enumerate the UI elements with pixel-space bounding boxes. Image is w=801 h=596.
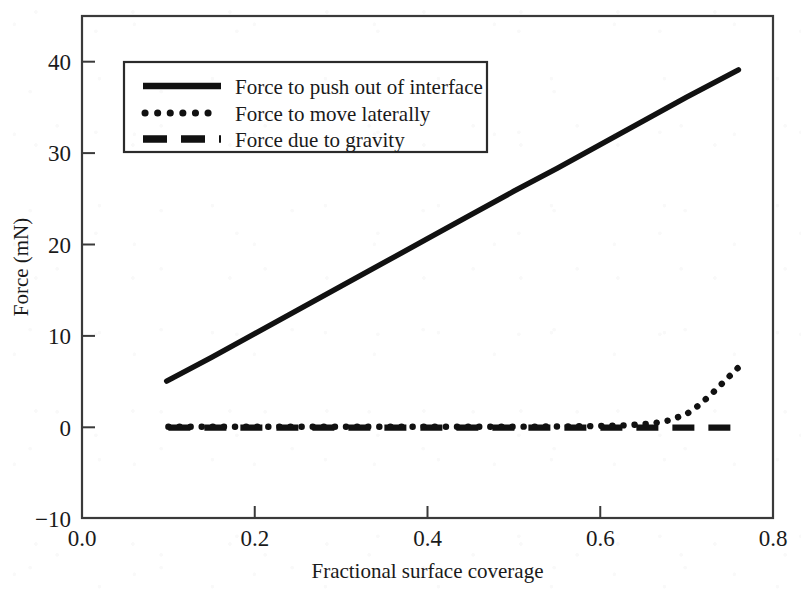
x-tick-label-2: 0.4	[413, 526, 442, 551]
x-tick-label-0: 0.0	[68, 526, 97, 551]
x-tick-label-3: 0.6	[586, 526, 615, 551]
y-tick-label-40: 40	[48, 50, 71, 75]
x-axis-title: Fractional surface coverage	[311, 559, 543, 583]
x-tick-label-1: 0.2	[240, 526, 269, 551]
y-tick-label-30: 30	[48, 141, 71, 166]
x-tick-label-4: 0.8	[759, 526, 788, 551]
figure-container: 40 30 20 10 0 −10 0.0 0.2 0.4 0.6 0.8 Fr…	[0, 0, 801, 596]
y-tick-label-0: 0	[60, 416, 72, 441]
legend-label-dashed: Force due to gravity	[235, 128, 405, 152]
force-vs-coverage-chart: 40 30 20 10 0 −10 0.0 0.2 0.4 0.6 0.8 Fr…	[0, 0, 801, 596]
y-axis-ticks	[82, 62, 95, 518]
series-force-to-move-laterally	[168, 367, 738, 426]
legend-label-dotted: Force to move laterally	[235, 102, 431, 126]
legend: Force to push out of interface Force to …	[124, 62, 487, 152]
legend-label-solid: Force to push out of interface	[235, 75, 483, 99]
y-axis-title: Force (mN)	[9, 218, 33, 317]
x-axis-ticks	[82, 506, 773, 518]
y-tick-label-10: 10	[48, 324, 71, 349]
y-tick-label-20: 20	[48, 233, 71, 258]
y-tick-label-minus10: −10	[35, 507, 71, 532]
